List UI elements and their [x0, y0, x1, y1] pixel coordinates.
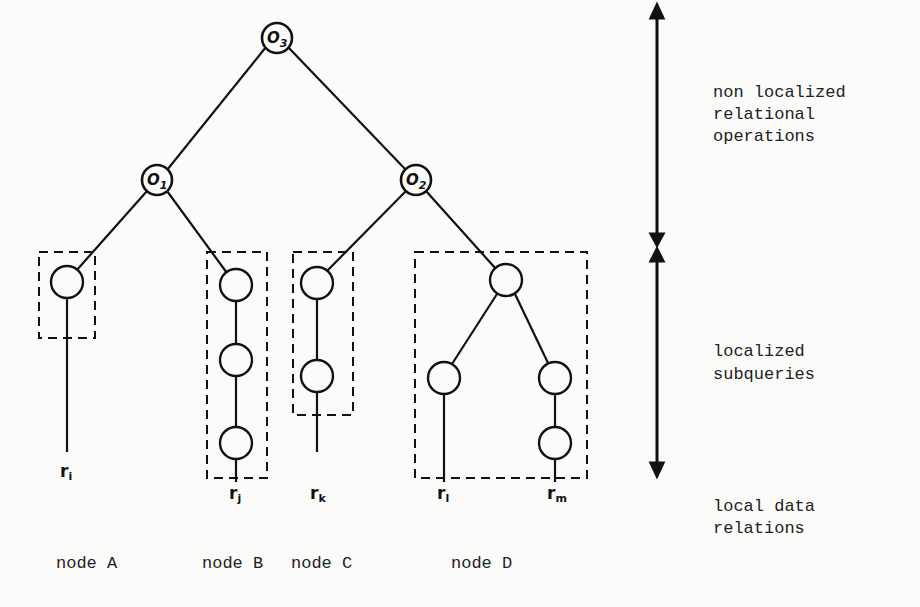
query-tree-diagram: O3 O1 O2 ri rj rk rl rm node A node B no…: [0, 0, 920, 607]
tree-edges: [67, 47, 555, 482]
relation-rm-label: rm: [547, 483, 567, 505]
subquery-node-circle: [539, 427, 571, 459]
subquery-node-circle: [220, 427, 252, 459]
relation-rl-label: rl: [437, 483, 449, 505]
arrow-down-icon: [651, 234, 663, 245]
subquery-node-circle: [220, 269, 252, 301]
annotation-local-data-line1: local data: [713, 497, 815, 516]
subquery-node-circle: [490, 264, 522, 296]
node-a-label: node A: [56, 554, 118, 573]
subquery-node-circle: [220, 344, 252, 376]
relation-ri-label: ri: [60, 461, 72, 483]
subquery-operators: [51, 264, 571, 459]
scope-arrows: [651, 5, 663, 476]
subquery-node-circle: [428, 362, 460, 394]
annotation-non-localized-line1: non localized: [713, 83, 846, 102]
annotation-localized-line2: subqueries: [713, 365, 815, 384]
subquery-node-circle: [301, 267, 333, 299]
relation-rj-label: rj: [229, 483, 241, 505]
subquery-node-circle: [51, 266, 83, 298]
annotation-local-data-line2: relations: [713, 519, 805, 538]
annotation-non-localized-line3: operations: [713, 127, 815, 146]
arrow-up-icon: [651, 249, 663, 261]
annotation-non-localized-line2: relational: [713, 105, 815, 124]
annotation-localized-line1: localized: [713, 342, 805, 361]
node-c-label: node C: [291, 554, 352, 573]
subquery-node-circle: [301, 360, 333, 392]
node-d-label: node D: [451, 554, 512, 573]
node-b-label: node B: [202, 554, 263, 573]
arrow-down-icon: [651, 463, 663, 476]
relation-rk-label: rk: [310, 483, 326, 505]
arrow-up-icon: [651, 5, 663, 18]
subquery-node-circle: [539, 362, 571, 394]
